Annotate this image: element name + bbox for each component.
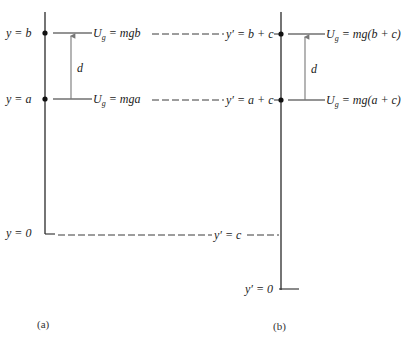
u-symbol: U — [326, 27, 335, 41]
u-expression: = mg(b + c) — [339, 27, 401, 41]
label-ug-mg-a-plus-c: Ug = mg(a + c) — [326, 94, 401, 111]
u-expression: = mga — [106, 92, 141, 106]
label-d-b: d — [311, 63, 317, 75]
label-d-a: d — [77, 62, 83, 74]
u-expression: = mgb — [106, 26, 141, 40]
label-yprime-b-plus-c: y′ = b + c — [226, 28, 273, 40]
caption-a: (a) — [37, 318, 49, 330]
u-expression: = mg(a + c) — [339, 93, 401, 107]
label-yprime-c: y′ = c — [214, 229, 241, 241]
label-y-equals-a: y = a — [6, 93, 31, 105]
label-y-equals-0: y = 0 — [6, 227, 31, 239]
label-yprime-a-plus-c: y′ = a + c — [226, 94, 273, 106]
label-ug-mga: Ug = mga — [93, 93, 140, 110]
point-ac-b — [278, 97, 283, 102]
label-yprime-0: y′ = 0 — [245, 283, 273, 295]
caption-b: (b) — [273, 320, 286, 332]
u-symbol: U — [326, 93, 335, 107]
u-symbol: U — [93, 26, 102, 40]
point-b-a — [42, 30, 47, 35]
label-y-equals-b: y = b — [6, 27, 31, 39]
point-bc-b — [278, 31, 283, 36]
label-ug-mg-b-plus-c: Ug = mg(b + c) — [326, 28, 401, 45]
point-a-a — [42, 96, 47, 101]
potential-energy-reference-diagram: y = b y = a y = 0 d Ug = mgb Ug = mga y′… — [0, 0, 412, 341]
diagram-lines — [0, 0, 412, 341]
label-ug-mgb: Ug = mgb — [93, 27, 140, 44]
u-symbol: U — [93, 92, 102, 106]
